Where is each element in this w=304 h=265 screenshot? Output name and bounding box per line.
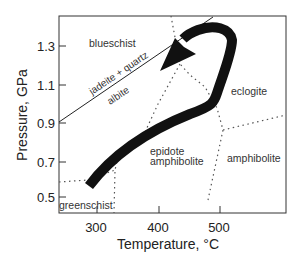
x-axis-tick-labels: 300 400 500 <box>85 220 230 235</box>
label-albite: albite <box>105 84 131 107</box>
label-eclogite: eclogite <box>231 85 267 97</box>
arrowhead-icon <box>160 38 196 71</box>
y-axis-tick-labels: 1.3 1.1 0.9 0.7 0.5 <box>37 39 55 205</box>
x-axis-ticks <box>97 206 220 213</box>
label-blueschist: blueschist <box>89 37 136 49</box>
boundary-eclogite-amphibolite <box>223 115 286 130</box>
y-tick-1.1: 1.1 <box>37 78 55 93</box>
pt-diagram-chart: 1.3 1.1 0.9 0.7 0.5 300 400 500 Temperat… <box>0 0 304 265</box>
label-amphibolite: amphibolite <box>227 152 281 164</box>
x-tick-300: 300 <box>85 220 107 235</box>
y-tick-1.3: 1.3 <box>37 39 55 54</box>
y-axis-title: Pressure, GPa <box>14 69 30 161</box>
y-tick-0.5: 0.5 <box>37 190 55 205</box>
x-tick-500: 500 <box>208 220 230 235</box>
y-tick-0.9: 0.9 <box>37 116 55 131</box>
y-tick-0.7: 0.7 <box>37 155 55 170</box>
x-tick-400: 400 <box>147 220 169 235</box>
label-epidote-amphibolite: amphibolite <box>150 155 204 167</box>
x-axis-title: Temperature, °C <box>117 236 219 252</box>
label-greenschist: greenschist <box>59 199 113 211</box>
